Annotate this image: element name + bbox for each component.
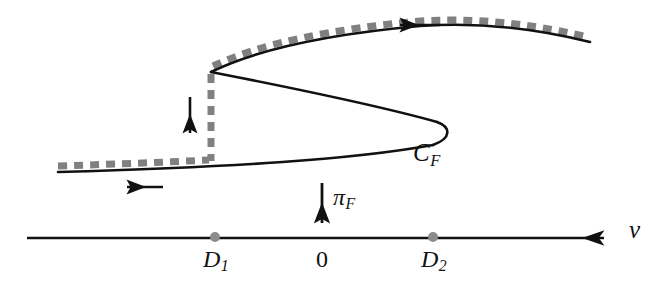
axis-tick-label-d2-base: D <box>421 246 438 272</box>
curve-middle-branch <box>211 72 437 122</box>
curve-upper-branch <box>211 25 590 72</box>
projection-label-pif: πF <box>333 185 355 212</box>
axis-tick-label-d1-base: D <box>203 246 220 272</box>
projection-label-pif-base: π <box>333 184 345 210</box>
arrows-group <box>127 25 440 223</box>
curve-label-cf-sub: F <box>430 151 440 170</box>
equilibrium-curve-group <box>58 25 590 172</box>
axis-tick-label-d2: D2 <box>421 247 447 274</box>
curve-label-cf: CF <box>413 140 440 169</box>
dashed-lower-branch <box>58 160 209 166</box>
projection-label-pif-sub: F <box>346 195 356 212</box>
axis-label-v: v <box>629 217 640 242</box>
bifurcation-figure: CF πF D1 0 D2 v <box>0 0 671 289</box>
axis-tick-label-zero: 0 <box>316 247 328 271</box>
curve-label-cf-base: C <box>413 139 430 166</box>
curve-lower-branch <box>58 145 433 172</box>
axis-tick-label-d1: D1 <box>203 247 229 274</box>
dashed-overlay-group <box>58 20 588 166</box>
axis-tick-label-d2-sub: 2 <box>439 257 447 274</box>
figure-canvas <box>0 0 671 289</box>
v-axis-group <box>27 232 604 242</box>
axis-dot-d2 <box>428 232 438 242</box>
axis-dot-d1 <box>210 232 220 242</box>
axis-tick-label-d1-sub: 1 <box>221 257 229 274</box>
